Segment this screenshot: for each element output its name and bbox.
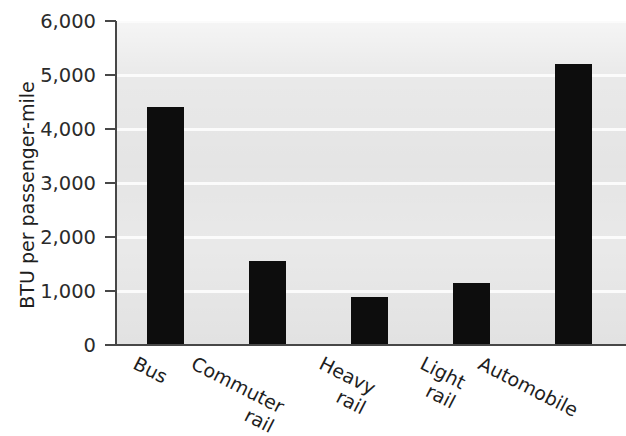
x-axis-tick-labels: BusCommuterrailHeavyrailLightrailAutomob… (0, 348, 626, 436)
y-axis-tick-mark (105, 236, 116, 238)
gridline (117, 290, 626, 293)
x-axis-line (105, 344, 626, 346)
x-axis-tick-label: Bus (130, 352, 171, 387)
bar (351, 297, 388, 345)
y-axis-tick-label: 2,000 (24, 226, 96, 249)
plot-area (117, 21, 626, 345)
y-axis-tick-label: 4,000 (24, 118, 96, 141)
y-axis-tick-mark (105, 182, 116, 184)
gridline (117, 128, 626, 131)
x-axis-tick-label: Lightrail (407, 352, 469, 413)
gridline (117, 21, 626, 23)
y-axis-tick-mark (105, 344, 116, 346)
y-axis-tick-label: 3,000 (24, 172, 96, 195)
y-axis-tick-label: 6,000 (24, 10, 96, 33)
x-axis-tick-label: Commuterrail (178, 352, 288, 436)
bar (249, 261, 286, 345)
gridline (117, 74, 626, 77)
bar-chart-figure: BTU per passenger-mile 01,0002,0003,0004… (0, 0, 626, 436)
y-axis-tick-mark (105, 20, 116, 22)
y-axis-tick-mark (105, 128, 116, 130)
y-axis-tick-mark (105, 74, 116, 76)
y-axis-tick-label: 1,000 (24, 280, 96, 303)
y-axis-tick-mark (105, 290, 116, 292)
x-axis-tick-label: Automobile (475, 352, 582, 421)
y-axis-tick-label: 5,000 (24, 64, 96, 87)
gridline (117, 236, 626, 239)
gridline (117, 182, 626, 185)
x-axis-tick-label: Heavyrail (306, 352, 380, 418)
bar (555, 64, 592, 345)
bar (147, 107, 184, 345)
bar (453, 283, 490, 345)
